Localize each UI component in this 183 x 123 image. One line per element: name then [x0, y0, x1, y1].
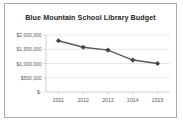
plot-area: $2,000,000 $1,500,000 $1,000,000 $500,00… — [5, 4, 178, 119]
x-tick-label-2: 2013 — [102, 97, 114, 103]
data-point-2011 — [56, 38, 61, 43]
x-tickmarks — [58, 92, 157, 95]
x-tick-label-4: 2015 — [152, 97, 164, 103]
y-tick-label-1: $1,500,000 — [16, 46, 41, 52]
data-point-2015 — [155, 61, 160, 66]
x-tick-labels: 2011 2012 2013 2014 2015 — [53, 97, 164, 103]
x-tick-label-1: 2012 — [77, 97, 89, 103]
chart-container: Blue Mountain School Library Budget — [4, 3, 177, 118]
x-tick-label-0: 2011 — [53, 97, 64, 103]
x-tick-label-3: 2014 — [127, 97, 139, 103]
y-tickmarks — [44, 35, 47, 92]
y-tick-label-4: $- — [37, 89, 42, 95]
data-point-2013 — [106, 48, 111, 53]
y-tick-label-0: $2,000,000 — [16, 32, 41, 38]
line-chart-svg: $2,000,000 $1,500,000 $1,000,000 $500,00… — [5, 4, 178, 119]
y-tick-labels: $2,000,000 $1,500,000 $1,000,000 $500,00… — [16, 32, 41, 95]
data-point-2012 — [81, 45, 86, 50]
y-tick-label-2: $1,000,000 — [16, 61, 41, 67]
y-tick-label-3: $500,000 — [21, 75, 42, 81]
gridlines — [46, 35, 170, 78]
data-point-2014 — [131, 58, 136, 63]
